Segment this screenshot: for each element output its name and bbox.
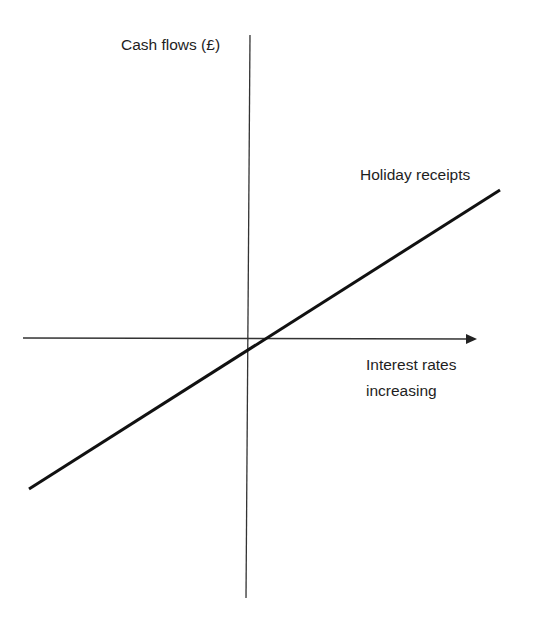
x-axis-label-line1: Interest rates xyxy=(366,355,456,374)
x-axis-arrow-icon xyxy=(466,334,477,344)
series-label: Holiday receipts xyxy=(360,165,470,184)
x-axis xyxy=(23,338,470,339)
y-axis xyxy=(246,35,250,598)
y-axis-label: Cash flows (£) xyxy=(121,35,220,54)
cash-flow-diagram: Cash flows (£) Holiday receipts Interest… xyxy=(0,0,554,643)
x-axis-label-line2: increasing xyxy=(366,381,437,400)
